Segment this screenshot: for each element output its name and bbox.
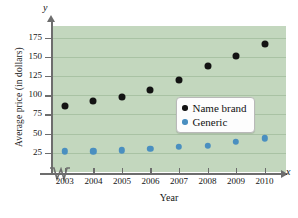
y-axis-tick-label: 175 <box>0 32 42 42</box>
chart-legend: Name brand Generic <box>176 97 255 133</box>
gridline <box>52 38 286 39</box>
data-point <box>61 102 68 109</box>
data-point <box>233 52 240 59</box>
y-axis-tick <box>45 114 53 115</box>
gridline <box>52 95 286 96</box>
scatter-plot-figure: y x Average price (in dollars) Year 2550… <box>0 0 298 218</box>
x-axis-tick <box>265 168 266 175</box>
gridline <box>52 134 286 135</box>
x-axis-tick <box>65 168 66 175</box>
legend-item-generic: Generic <box>182 115 247 129</box>
gridline <box>52 57 286 58</box>
gridline <box>52 76 286 77</box>
y-axis-tick-label: 150 <box>0 51 42 61</box>
data-point <box>90 98 97 105</box>
x-axis-tick <box>93 168 94 175</box>
x-axis-tick <box>122 168 123 175</box>
x-axis-tick <box>150 168 151 175</box>
legend-swatch-generic <box>182 119 188 125</box>
data-point <box>261 40 268 47</box>
y-axis-tick <box>45 95 53 96</box>
data-point <box>175 76 182 83</box>
y-axis-tick <box>45 153 53 154</box>
x-axis-tick <box>208 168 209 175</box>
y-axis-tick <box>45 57 53 58</box>
y-axis-tick <box>45 134 53 135</box>
legend-swatch-name-brand <box>182 105 188 111</box>
x-axis-line <box>40 173 283 175</box>
y-axis-tick-label: 125 <box>0 70 42 80</box>
y-axis-tick <box>45 38 53 39</box>
gridline <box>52 153 286 154</box>
legend-label-generic: Generic <box>193 116 228 128</box>
y-axis-tick-label: 100 <box>0 89 42 99</box>
legend-label-name-brand: Name brand <box>193 102 247 114</box>
data-point <box>204 62 211 69</box>
x-axis-letter: x <box>286 166 290 177</box>
y-axis-tick <box>45 76 53 77</box>
y-axis-tick-label: 50 <box>0 128 42 138</box>
data-point <box>118 93 125 100</box>
y-axis-tick-label: 75 <box>0 108 42 118</box>
y-axis-line <box>51 20 53 175</box>
x-axis-tick <box>179 168 180 175</box>
x-axis-title: Year <box>52 192 286 203</box>
x-axis-tick-label: 2010 <box>248 176 282 186</box>
y-axis-arrow-icon <box>47 15 55 22</box>
x-axis-tick <box>236 168 237 175</box>
legend-item-name-brand: Name brand <box>182 101 247 115</box>
y-axis-letter: y <box>43 2 47 13</box>
y-axis-tick-label: 25 <box>0 147 42 157</box>
data-point <box>147 86 154 93</box>
